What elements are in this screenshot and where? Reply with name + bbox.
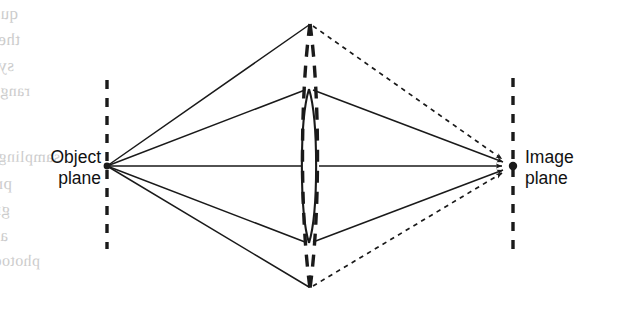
image-plane-label: Image plane (525, 147, 574, 189)
object-plane-label-line2: plane (0, 168, 101, 189)
ray-small-lens-top-to-image (313, 90, 503, 162)
ray-object-to-large-lens-top (107, 25, 309, 166)
object-plane-label: Object plane (0, 147, 101, 189)
object-plane-label-line1: Object (0, 147, 101, 168)
object-side-solid-rays (107, 25, 309, 287)
ray-small-lens-bottom-to-image (313, 170, 503, 242)
image-point (509, 162, 517, 170)
ray-object-to-small-lens-bottom (107, 166, 305, 242)
image-side-dotted-rays (313, 26, 502, 286)
ray-large-lens-top-to-image (313, 26, 502, 159)
ray-object-to-small-lens-top (107, 90, 305, 166)
image-plane-label-line2: plane (525, 168, 574, 189)
ray-object-to-large-lens-bottom (107, 166, 309, 287)
object-point (104, 163, 111, 170)
small-aperture-lens-solid (302, 89, 316, 243)
image-side-solid-rays (313, 90, 503, 242)
ray-diagram-figure: quality sharp the degrades that noisethe… (0, 0, 623, 316)
ray-large-lens-bottom-to-image (313, 173, 502, 286)
image-plane-label-line1: Image (525, 147, 574, 168)
large-lens-left-arc (303, 24, 311, 288)
